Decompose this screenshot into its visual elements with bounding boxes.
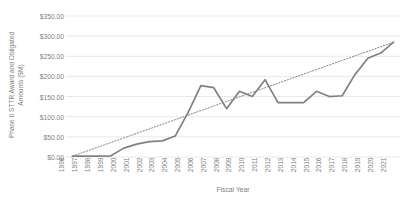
y-axis-tick-label: $250.00	[40, 53, 64, 60]
x-axis-title: Fiscal Year	[66, 186, 400, 193]
gridlines	[66, 16, 400, 157]
y-axis-tick-label: $100.00	[40, 113, 64, 120]
y-axis-title-line-2: Amounts ($M)	[17, 32, 26, 138]
y-axis-tick-label: $50.00	[44, 133, 64, 140]
x-axis-tick-labels: 1996199719981999200020012002200320042005…	[66, 159, 400, 187]
y-axis-title-line-1: Phase II STTR Award and Obligated	[8, 32, 17, 138]
y-axis-tick-label: $200.00	[40, 73, 64, 80]
y-axis-title: Phase II STTR Award and Obligated Amount…	[0, 0, 30, 170]
y-axis-tick-label: $300.00	[40, 33, 64, 40]
x-axis-tick-label: 2021	[379, 159, 409, 185]
chart-container: Phase II STTR Award and Obligated Amount…	[0, 0, 412, 200]
y-axis-tick-labels: $0.00$50.00$100.00$150.00$200.00$250.00$…	[28, 0, 64, 170]
y-axis-tick-label: $350.00	[40, 13, 64, 20]
chart-svg	[66, 8, 400, 160]
y-axis-tick-label: $150.00	[40, 93, 64, 100]
plot-area	[66, 8, 400, 160]
